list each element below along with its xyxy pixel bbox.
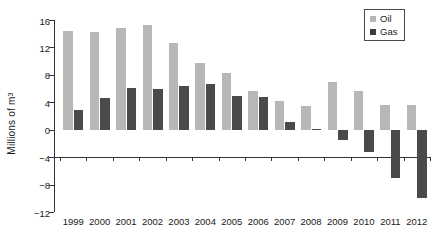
x-tick-mark	[219, 157, 220, 161]
x-tick-mark	[404, 157, 405, 161]
x-tick-mark	[166, 157, 167, 161]
x-tick-mark	[271, 157, 272, 161]
x-tick-mark	[298, 157, 299, 161]
y-tick-label: −12	[34, 207, 50, 218]
x-tick-mark	[192, 157, 193, 161]
x-tick-label-2005: 2005	[219, 216, 245, 227]
bar-gas-2010	[364, 130, 374, 153]
x-tick-mark	[245, 157, 246, 161]
x-tick-label-2001: 2001	[113, 216, 139, 227]
bar-gas-2001	[127, 88, 137, 130]
x-tick-label-2003: 2003	[166, 216, 192, 227]
y-axis-line	[54, 20, 55, 212]
x-tick-label-1999: 1999	[60, 216, 86, 227]
x-tick-mark	[139, 157, 140, 161]
bar-gas-2007	[285, 122, 295, 130]
bar-gas-2011	[391, 130, 401, 178]
x-tick-label-2007: 2007	[271, 216, 297, 227]
legend-label-gas: Gas	[380, 26, 397, 37]
x-axis-line	[54, 157, 430, 158]
x-tick-label-2011: 2011	[377, 216, 403, 227]
y-tick-label: 12	[39, 42, 50, 53]
x-tick-mark	[113, 157, 114, 161]
x-tick-label-2010: 2010	[351, 216, 377, 227]
bar-oil-2011	[380, 105, 390, 130]
x-tick-mark	[430, 157, 431, 161]
bar-gas-2006	[259, 97, 269, 130]
bar-oil-2001	[116, 28, 126, 129]
bar-gas-2008	[312, 129, 322, 130]
legend-label-oil: Oil	[380, 13, 392, 24]
bar-oil-1999	[63, 31, 73, 130]
x-tick-label-2006: 2006	[245, 216, 271, 227]
y-axis-title-text: Millions of m	[6, 96, 17, 154]
bar-oil-2008	[301, 106, 311, 130]
bar-gas-2005	[232, 96, 242, 130]
bar-gas-2000	[100, 98, 110, 130]
y-tick-label: 8	[45, 70, 50, 81]
legend-item-gas: Gas	[370, 26, 397, 37]
bar-oil-2005	[222, 73, 232, 129]
y-tick-label: 4	[45, 97, 50, 108]
legend-swatch-oil-icon	[370, 16, 376, 22]
x-tick-label-2008: 2008	[298, 216, 324, 227]
bar-gas-2009	[338, 130, 348, 140]
bar-oil-2012	[407, 105, 417, 130]
bar-oil-2010	[354, 91, 364, 129]
bar-oil-2009	[328, 82, 338, 129]
bar-oil-2007	[275, 101, 285, 130]
x-tick-label-2009: 2009	[324, 216, 350, 227]
bar-oil-2003	[169, 43, 179, 130]
legend-item-oil: Oil	[370, 13, 397, 24]
x-tick-label-2004: 2004	[192, 216, 218, 227]
y-tick-label: 16	[39, 15, 50, 26]
bar-gas-2012	[417, 130, 427, 199]
x-tick-label-2012: 2012	[404, 216, 430, 227]
legend: Oil Gas	[364, 9, 405, 41]
bar-gas-1999	[74, 110, 84, 130]
x-tick-mark	[377, 157, 378, 161]
bar-oil-2000	[90, 32, 100, 129]
y-tick-label: −4	[39, 152, 50, 163]
x-tick-label-2002: 2002	[139, 216, 165, 227]
bar-chart: Millions of m3 1612840−4−8−12 1999200020…	[0, 0, 439, 247]
bar-oil-2006	[248, 91, 258, 130]
y-tick-label: 0	[45, 125, 50, 136]
plot-area: 1612840−4−8−12	[54, 20, 430, 212]
x-tick-mark	[351, 157, 352, 161]
legend-swatch-gas-icon	[370, 29, 376, 35]
bar-oil-2002	[143, 25, 153, 129]
x-tick-label-2000: 2000	[86, 216, 112, 227]
bar-gas-2004	[206, 84, 216, 129]
x-tick-mark	[86, 157, 87, 161]
bar-gas-2002	[153, 89, 163, 129]
x-tick-mark	[60, 157, 61, 161]
y-tick-label: −8	[39, 180, 50, 191]
bar-oil-2004	[195, 63, 205, 130]
bar-gas-2003	[179, 86, 189, 130]
x-tick-mark	[324, 157, 325, 161]
y-axis-title: Millions of m3	[0, 0, 22, 247]
